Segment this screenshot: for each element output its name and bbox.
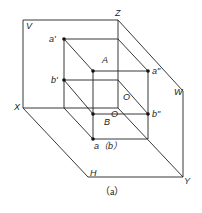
point-a-double-prime (146, 69, 150, 73)
label-b-prime: b' (51, 76, 58, 85)
point-a-prime (62, 37, 66, 41)
diagram-lines (0, 0, 202, 213)
label-a-prime: a' (49, 35, 56, 44)
point-b-double-prime (146, 112, 150, 116)
projection-diagram: V Z X W H Y a' b' A a" b" O O B a（b） （a） (0, 0, 202, 213)
label-plane-W: W (174, 88, 183, 97)
label-plane-V: V (26, 22, 32, 31)
label-axis-X: X (14, 103, 20, 112)
label-axis-Z: Z (115, 9, 121, 18)
label-O-inner: O (111, 110, 118, 119)
point-B (91, 112, 95, 116)
label-axis-Y: Y (184, 177, 190, 186)
figure-caption: （a） (100, 187, 124, 197)
label-b-double-prime: b" (152, 110, 160, 119)
point-A (91, 69, 95, 73)
label-a-double-prime: a" (152, 67, 160, 76)
label-plane-H: H (90, 169, 97, 178)
label-A: A (102, 56, 108, 65)
label-a-b: a（b） (94, 142, 122, 151)
label-origin-O: O (123, 93, 130, 102)
point-b-prime (62, 78, 66, 82)
label-B: B (104, 118, 110, 127)
